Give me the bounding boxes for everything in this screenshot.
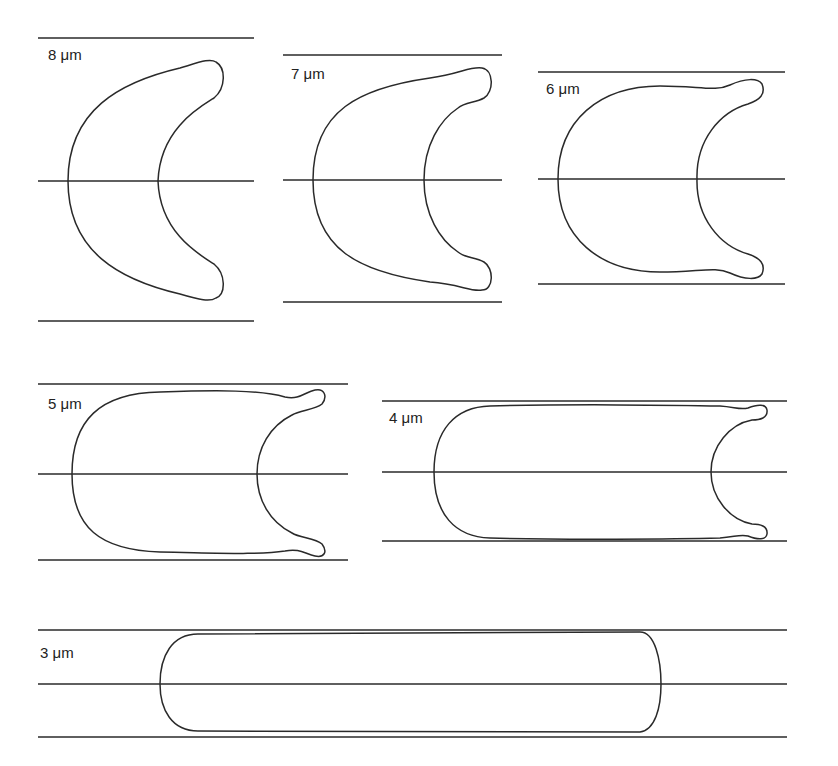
diameter-label: 7 μm [291,65,325,82]
red-blood-cell [160,632,661,732]
diameter-label: 5 μm [48,395,82,412]
panel-6um: 6 μm [538,72,785,284]
panel-3um: 3 μm [38,630,787,737]
red-blood-cell [68,60,223,300]
red-blood-cell [72,390,325,557]
diameter-label: 3 μm [40,644,74,661]
panel-7um: 7 μm [283,55,502,302]
panel-8um: 8 μm [38,38,254,321]
panel-4um: 4 μm [382,401,787,541]
diameter-label: 8 μm [48,46,82,63]
panel-5um: 5 μm [38,384,348,560]
diameter-label: 6 μm [546,80,580,97]
red-blood-cell [313,68,491,291]
diameter-label: 4 μm [389,409,423,426]
capillary-figure: 8 μm 7 μm 6 μm 5 μm 4 μm 3 μm [0,0,838,766]
